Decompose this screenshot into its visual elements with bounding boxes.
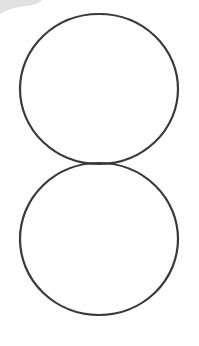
figure-canvas [0, 0, 199, 346]
two-circles-diagram [0, 0, 199, 346]
corner-blob [0, 0, 42, 14]
bottom-circle [20, 163, 178, 315]
top-circle [20, 14, 178, 164]
